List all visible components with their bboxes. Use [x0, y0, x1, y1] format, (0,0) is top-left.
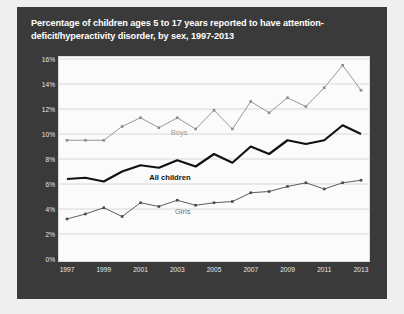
data-point-marker [176, 199, 179, 202]
data-point-marker [286, 96, 289, 99]
data-point-marker [66, 218, 69, 221]
y-axis-tick-label: 8% [15, 156, 55, 163]
data-point-marker [194, 128, 197, 131]
x-axis-tick-label: 2013 [354, 266, 369, 273]
series-label-boys: Boys [171, 127, 188, 136]
data-point-marker [323, 86, 326, 89]
data-point-marker [323, 188, 326, 191]
data-point-marker [213, 109, 216, 112]
data-point-marker [341, 181, 344, 184]
y-axis-tick-label: 12% [15, 106, 55, 113]
x-axis-tick-label: 2011 [317, 266, 331, 273]
y-axis-tick-label: 14% [15, 81, 55, 88]
data-point-marker [213, 201, 216, 204]
data-point-marker [176, 116, 179, 119]
y-axis-tick-label: 6% [15, 181, 55, 188]
y-axis-tick-label: 16% [15, 56, 55, 63]
series-label-girls: Girls [175, 206, 191, 215]
chart-figure: Percentage of children ages 5 to 17 year… [17, 7, 387, 299]
x-axis-tick-label: 2001 [133, 266, 148, 273]
data-point-marker [305, 181, 308, 184]
data-point-marker [286, 185, 289, 188]
data-point-marker [305, 105, 308, 108]
x-axis-tick-label: 2003 [170, 266, 185, 273]
series-line-girls [67, 180, 361, 219]
data-point-marker [84, 213, 87, 216]
data-point-marker [102, 139, 105, 142]
x-axis-tick-label: 1999 [96, 266, 111, 273]
data-point-marker [84, 139, 87, 142]
series-line-boys [67, 65, 361, 140]
series-label-all-children: All children [149, 173, 190, 182]
data-point-marker [249, 100, 252, 103]
data-point-marker [66, 139, 69, 142]
y-axis-tick-label: 10% [15, 131, 55, 138]
y-axis-tick-label: 4% [15, 206, 55, 213]
x-axis-tick-label: 2005 [207, 266, 222, 273]
data-point-marker [121, 215, 124, 218]
data-point-marker [231, 200, 234, 203]
plot-area: 0%2%4%6%8%10%12%14%16%199719992001200320… [58, 56, 370, 262]
data-point-marker [268, 111, 271, 114]
x-axis-tick-label: 1997 [60, 266, 75, 273]
data-point-marker [360, 89, 363, 92]
y-axis-tick-label: 0% [15, 256, 55, 263]
x-axis-tick-label: 2009 [280, 266, 295, 273]
data-point-marker [360, 179, 363, 182]
x-axis-tick-label: 2007 [243, 266, 258, 273]
data-point-marker [102, 206, 105, 209]
data-point-marker [139, 116, 142, 119]
data-point-marker [158, 126, 161, 129]
chart-title: Percentage of children ages 5 to 17 year… [31, 17, 371, 43]
data-point-marker [268, 190, 271, 193]
data-point-marker [121, 125, 124, 128]
data-point-marker [341, 64, 344, 67]
y-axis-tick-label: 2% [15, 231, 55, 238]
data-point-marker [139, 201, 142, 204]
data-point-marker [249, 191, 252, 194]
data-point-marker [194, 204, 197, 207]
data-point-marker [158, 205, 161, 208]
chart-svg [58, 56, 370, 262]
data-point-marker [231, 128, 234, 131]
